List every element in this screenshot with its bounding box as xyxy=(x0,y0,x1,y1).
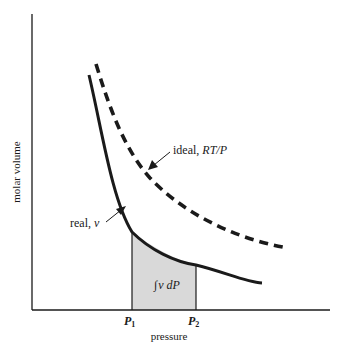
integral-shaded-area xyxy=(132,232,196,310)
y-axis-label: molar volume xyxy=(10,141,22,203)
ideal-label: ideal, RT/P xyxy=(173,143,228,157)
molar-volume-diagram: ideal, RT/P real, v ∫v dP P1 P2 pressure… xyxy=(0,0,344,356)
real-curve xyxy=(89,75,262,283)
ideal-arrow-icon xyxy=(148,160,158,170)
x-axis-label: pressure xyxy=(151,330,188,342)
p1-label: P1 xyxy=(124,314,135,329)
ideal-pointer-line xyxy=(154,152,170,165)
real-label: real, v xyxy=(70,216,100,230)
p2-label: P2 xyxy=(188,314,199,329)
integral-label: ∫v dP xyxy=(153,278,181,292)
